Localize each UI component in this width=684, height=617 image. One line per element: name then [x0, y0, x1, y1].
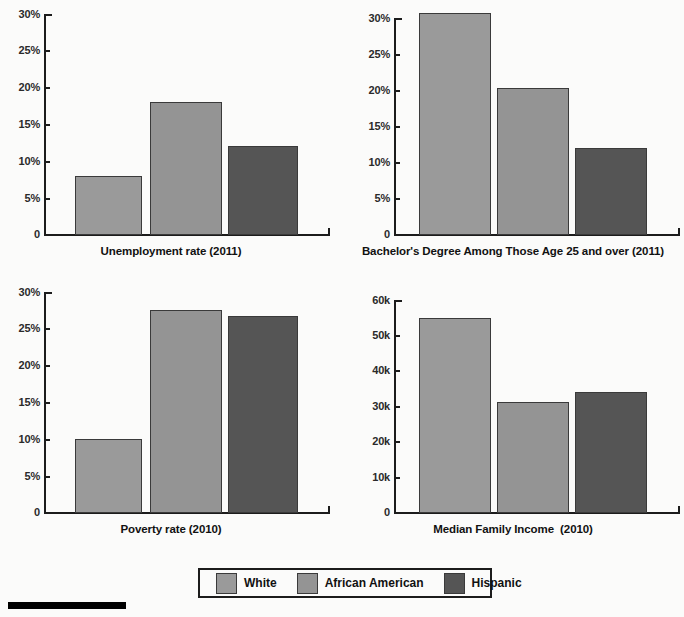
y-tick-25 — [394, 54, 400, 56]
y-tick-30 — [394, 18, 400, 20]
y-tick-label-30: 30% — [0, 9, 40, 20]
y-tick-label-30k: 30k — [348, 401, 390, 412]
y-tick-label-0: 0 — [348, 507, 390, 518]
chart-panel-median-family-income: 60k 50k 40k 30k 20k 10k 0 Median Family … — [342, 278, 684, 543]
y-tick-label-20: 20% — [348, 85, 390, 96]
y-tick-15 — [44, 402, 50, 404]
y-tick-5 — [44, 198, 50, 200]
y-tick-label-0: 0 — [0, 507, 40, 518]
y-tick-label-15: 15% — [0, 119, 40, 130]
bar-white — [75, 176, 142, 235]
y-tick-15 — [394, 126, 400, 128]
y-tick-label-20: 20% — [0, 82, 40, 93]
bar-hispanic — [228, 146, 298, 235]
chart-title-bachelors-degree: Bachelor's Degree Among Those Age 25 and… — [342, 245, 684, 257]
bar-hispanic — [575, 392, 647, 513]
legend-label-white: White — [244, 576, 277, 590]
plot-area-unemployment-rate: 30% 25% 20% 15% 10% 5% 0 Unemployment ra… — [0, 0, 342, 265]
y-tick-label-30: 30% — [348, 13, 390, 24]
y-tick-label-30: 30% — [0, 287, 40, 298]
y-tick-10 — [44, 439, 50, 441]
y-tick-30 — [44, 14, 50, 16]
legend-label-hispanic: Hispanic — [472, 576, 522, 590]
y-tick-30 — [44, 292, 50, 294]
y-tick-5 — [394, 198, 400, 200]
y-tick-25 — [44, 328, 50, 330]
bar-white — [75, 439, 142, 513]
plot-area-poverty-rate: 30% 25% 20% 15% 10% 5% 0 Poverty rate (2… — [0, 278, 342, 543]
y-tick-label-10: 10% — [348, 157, 390, 168]
y-tick-25 — [44, 50, 50, 52]
y-tick-label-20k: 20k — [348, 436, 390, 447]
bar-hispanic — [575, 148, 647, 235]
x-axis-cap-right — [678, 506, 680, 514]
y-tick-30k — [394, 406, 400, 408]
y-tick-label-60k: 60k — [348, 295, 390, 306]
bar-hispanic — [228, 316, 298, 513]
chart-title-unemployment-rate: Unemployment rate (2011) — [0, 245, 342, 257]
y-tick-20 — [44, 365, 50, 367]
legend-item-hispanic: Hispanic — [444, 573, 522, 594]
y-tick-label-25: 25% — [0, 45, 40, 56]
y-tick-label-10: 10% — [0, 434, 40, 445]
y-tick-label-15: 15% — [0, 397, 40, 408]
y-tick-label-5: 5% — [0, 471, 40, 482]
y-tick-20k — [394, 441, 400, 443]
y-tick-10 — [394, 162, 400, 164]
chart-panel-bachelors-degree: 30% 25% 20% 15% 10% 5% 0 Bachelor's Degr… — [342, 0, 684, 265]
chart-title-poverty-rate: Poverty rate (2010) — [0, 523, 342, 535]
y-tick-label-0: 0 — [0, 229, 40, 240]
legend-swatch-hispanic-icon — [444, 573, 465, 594]
y-tick-label-10: 10% — [0, 156, 40, 167]
y-tick-label-20: 20% — [0, 360, 40, 371]
chart-title-median-family-income: Median Family Income (2010) — [342, 523, 684, 535]
y-tick-50k — [394, 335, 400, 337]
bar-african-american — [150, 102, 222, 235]
bar-white — [419, 13, 491, 235]
y-tick-15 — [44, 124, 50, 126]
bar-african-american — [150, 310, 222, 513]
legend-item-white: White — [216, 573, 277, 594]
y-tick-10k — [394, 477, 400, 479]
y-tick-label-5: 5% — [348, 193, 390, 204]
y-tick-60k — [394, 300, 400, 302]
y-tick-5 — [44, 476, 50, 478]
y-tick-label-25: 25% — [0, 323, 40, 334]
plot-area-bachelors-degree: 30% 25% 20% 15% 10% 5% 0 Bachelor's Degr… — [342, 0, 684, 265]
x-axis-cap-right — [678, 228, 680, 236]
legend-item-african-american: African American — [297, 573, 424, 594]
y-tick-20 — [394, 90, 400, 92]
y-tick-label-25: 25% — [348, 49, 390, 60]
y-tick-label-5: 5% — [0, 193, 40, 204]
y-tick-label-0: 0 — [348, 229, 390, 240]
y-tick-40k — [394, 370, 400, 372]
legend-label-african-american: African American — [325, 576, 424, 590]
y-tick-20 — [44, 87, 50, 89]
legend: White African American Hispanic — [198, 568, 492, 598]
y-tick-label-10k: 10k — [348, 472, 390, 483]
x-axis-cap-right — [328, 228, 330, 236]
x-axis-cap-right — [328, 506, 330, 514]
bar-white — [419, 318, 491, 513]
bar-african-american — [497, 402, 569, 513]
chart-panel-poverty-rate: 30% 25% 20% 15% 10% 5% 0 Poverty rate (2… — [0, 278, 342, 543]
chart-panel-unemployment-rate: 30% 25% 20% 15% 10% 5% 0 Unemployment ra… — [0, 0, 342, 265]
y-tick-10 — [44, 161, 50, 163]
legend-swatch-white-icon — [216, 573, 237, 594]
plot-area-median-family-income: 60k 50k 40k 30k 20k 10k 0 Median Family … — [342, 278, 684, 543]
bottom-rule-bar — [8, 602, 126, 609]
y-tick-label-15: 15% — [348, 121, 390, 132]
y-tick-label-50k: 50k — [348, 330, 390, 341]
bar-african-american — [497, 88, 569, 235]
legend-swatch-african-american-icon — [297, 573, 318, 594]
y-tick-label-40k: 40k — [348, 365, 390, 376]
figure-canvas: 30% 25% 20% 15% 10% 5% 0 Unemployment ra… — [0, 0, 684, 617]
